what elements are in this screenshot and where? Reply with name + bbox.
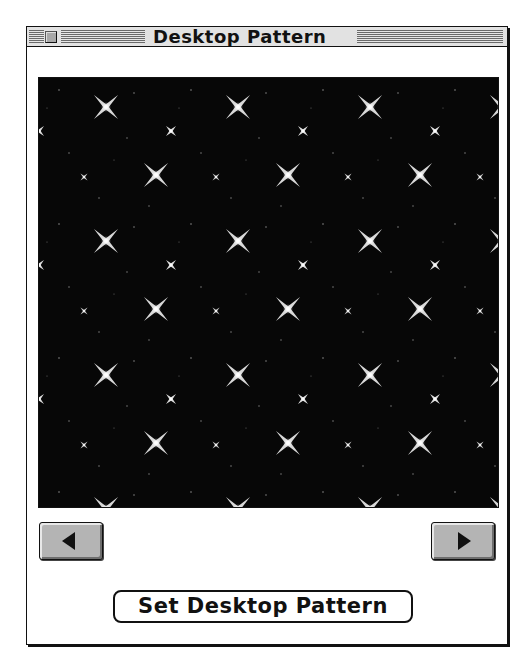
starfield-pattern-icon: [39, 78, 498, 507]
right-arrow-icon: [458, 532, 471, 550]
set-desktop-pattern-button[interactable]: Set Desktop Pattern: [113, 590, 413, 623]
title-stripes-mid-icon: [61, 30, 145, 43]
title-stripes-right-icon: [357, 30, 503, 43]
close-box-icon: [45, 31, 57, 43]
desktop-pattern-window: Desktop Pattern: [26, 26, 508, 645]
title-bar[interactable]: Desktop Pattern: [27, 27, 507, 47]
next-pattern-button[interactable]: [431, 522, 495, 560]
close-button[interactable]: [44, 29, 57, 44]
previous-pattern-button[interactable]: [39, 522, 103, 560]
window-title: Desktop Pattern: [145, 27, 334, 46]
pattern-preview: [38, 77, 499, 508]
left-arrow-icon: [62, 532, 75, 550]
